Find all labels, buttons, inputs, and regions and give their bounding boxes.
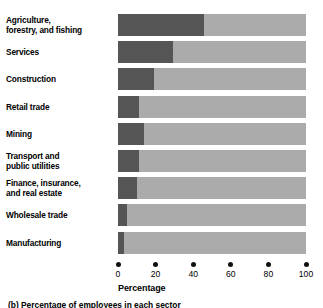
bar-segment-dark [118,14,204,36]
bar-category-label: Services [6,47,114,57]
bar-category-label: Transport and public utilities [6,151,114,172]
tick-dot-marker [153,262,158,267]
bar-track [118,232,306,254]
x-axis-tick-label: 0 [104,269,132,279]
bar-track [118,204,306,226]
bar-track [118,41,306,63]
bar-segment-dark [118,123,144,145]
tick-dot-marker [116,262,121,267]
bar-category-label: Agriculture, forestry, and fishing [6,15,114,36]
x-axis-title: Percentage [118,283,166,293]
bar-category-label: Retail trade [6,101,114,111]
bar-track [118,177,306,199]
bar-row: Retail trade [0,96,323,118]
bar-segment-dark [118,68,154,90]
x-axis: 020406080100 [118,262,306,302]
bar-segment-dark [118,41,173,63]
bar-category-label: Mining [6,129,114,139]
bar-row: Services [0,41,323,63]
bar-track [118,96,306,118]
bar-segment-dark [118,177,137,199]
bar-segment-dark [118,96,139,118]
x-axis-tick-label: 60 [217,269,245,279]
tick-dot-marker [228,262,233,267]
x-axis-tick-label: 40 [179,269,207,279]
bar-category-label: Finance, insurance, and real estate [6,178,114,199]
bar-category-label: Wholesale trade [6,210,114,220]
bar-category-label: Construction [6,74,114,84]
stacked-bar-chart: Agriculture, forestry, and fishingServic… [0,0,323,308]
figure-caption: (b) Percentage of employees in each sect… [8,300,323,308]
bar-track [118,14,306,36]
tick-dot-marker [191,262,196,267]
x-axis-tick-label: 80 [254,269,282,279]
x-axis-tick-label: 100 [292,269,320,279]
bar-segment-dark [118,150,139,172]
chart-plot-area: Agriculture, forestry, and fishingServic… [0,14,323,259]
tick-dot-marker [304,262,309,267]
bar-segment-dark [118,204,127,226]
bar-row: Wholesale trade [0,204,323,226]
bar-row: Agriculture, forestry, and fishing [0,14,323,36]
bar-row: Mining [0,123,323,145]
bar-track [118,150,306,172]
bar-segment-dark [118,232,124,254]
bar-row: Transport and public utilities [0,150,323,172]
bar-track [118,68,306,90]
bar-row: Finance, insurance, and real estate [0,177,323,199]
bar-category-label: Manufacturing [6,237,114,247]
x-axis-tick-label: 20 [142,269,170,279]
tick-dot-marker [266,262,271,267]
bar-track [118,123,306,145]
bar-row: Construction [0,68,323,90]
bar-row: Manufacturing [0,232,323,254]
